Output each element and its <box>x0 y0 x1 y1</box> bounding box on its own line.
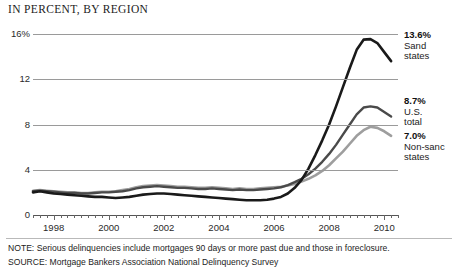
footnote-source: SOURCE: Mortgage Bankers Association Nat… <box>8 257 278 267</box>
x-tick <box>157 215 158 218</box>
x-tick <box>357 215 358 218</box>
x-tick <box>178 215 179 218</box>
x-tick-label: 2002 <box>153 222 174 233</box>
x-tick <box>95 215 96 218</box>
x-tick <box>185 215 186 218</box>
x-tick <box>302 215 303 218</box>
x-tick <box>109 215 110 220</box>
x-tick <box>198 215 199 218</box>
x-tick <box>61 215 62 218</box>
x-tick <box>260 215 261 218</box>
x-tick <box>164 215 165 220</box>
x-tick <box>233 215 234 218</box>
x-tick <box>343 215 344 218</box>
x-tick <box>274 215 275 220</box>
callout-name-line2: total <box>404 117 458 128</box>
x-tick <box>350 215 351 218</box>
x-tick <box>81 215 82 218</box>
callout-name-line2: states <box>404 152 458 163</box>
x-tick <box>123 215 124 218</box>
series-line-sand-states <box>33 39 391 200</box>
chart-page: IN PERCENT, BY REGION 16%12840 199820002… <box>0 0 458 276</box>
x-tick-label: 2004 <box>208 222 229 233</box>
x-tick <box>315 215 316 218</box>
x-tick <box>205 215 206 218</box>
series-line-u-s-total <box>33 106 391 193</box>
callout-us-total: 8.7% U.S. total <box>404 96 458 128</box>
y-axis: 16%12840 <box>0 0 30 276</box>
footnote-note: NOTE: Serious delinquencies include mort… <box>8 243 390 253</box>
x-tick <box>336 215 337 218</box>
callout-value: 7.0% <box>404 131 458 142</box>
x-tick <box>384 215 385 220</box>
y-tick-label: 16% <box>11 28 30 39</box>
y-tick-label: 4 <box>25 164 30 175</box>
gridline-12 <box>33 79 398 80</box>
x-tick <box>267 215 268 218</box>
x-tick <box>370 215 371 218</box>
footnote-divider <box>6 238 452 239</box>
x-tick-label: 1998 <box>43 222 64 233</box>
x-tick <box>129 215 130 218</box>
x-tick <box>308 215 309 218</box>
x-tick <box>295 215 296 218</box>
x-tick <box>322 215 323 218</box>
x-tick <box>67 215 68 218</box>
gridline-4 <box>33 170 398 171</box>
x-tick <box>364 215 365 218</box>
y-tick-label: 0 <box>25 209 30 220</box>
x-tick <box>391 215 392 218</box>
x-tick <box>398 215 399 218</box>
x-tick <box>377 215 378 218</box>
x-tick <box>40 215 41 218</box>
x-tick <box>54 215 55 220</box>
x-tick <box>136 215 137 218</box>
x-tick <box>191 215 192 218</box>
x-tick <box>219 215 220 220</box>
x-tick-label: 2000 <box>98 222 119 233</box>
x-tick <box>150 215 151 218</box>
callout-name-line2: states <box>404 51 458 62</box>
plot-area <box>33 34 398 215</box>
callout-sand-states: 13.6% Sand states <box>404 30 458 62</box>
x-tick <box>253 215 254 218</box>
x-tick-label: 2010 <box>374 222 395 233</box>
gridline-8 <box>33 125 398 126</box>
callout-value: 13.6% <box>404 30 458 41</box>
callout-value: 8.7% <box>404 96 458 107</box>
x-tick <box>33 215 34 218</box>
x-tick <box>116 215 117 218</box>
series-line-non-sand-states <box>33 127 391 193</box>
y-tick-label: 12 <box>19 73 30 84</box>
x-tick <box>47 215 48 218</box>
x-tick <box>88 215 89 218</box>
x-tick <box>102 215 103 218</box>
x-tick <box>212 215 213 218</box>
x-tick <box>74 215 75 218</box>
x-tick <box>171 215 172 218</box>
y-tick-label: 8 <box>25 119 30 130</box>
x-tick-label: 2006 <box>263 222 284 233</box>
x-tick-label: 2008 <box>319 222 340 233</box>
x-tick <box>246 215 247 218</box>
x-tick <box>143 215 144 218</box>
x-tick <box>281 215 282 218</box>
x-tick <box>329 215 330 220</box>
gridline-16 <box>33 34 398 35</box>
x-tick <box>226 215 227 218</box>
x-tick <box>288 215 289 218</box>
x-tick <box>240 215 241 218</box>
callout-non-sand-states: 7.0% Non-sanc states <box>404 131 458 163</box>
